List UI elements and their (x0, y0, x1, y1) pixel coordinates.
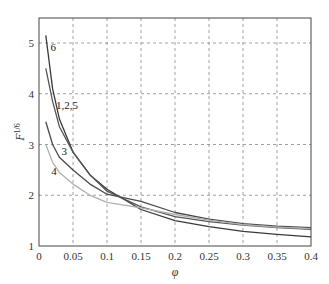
x-tick-label: 0.1 (100, 250, 114, 262)
x-tick-label: 0.4 (304, 250, 318, 262)
y-axis-ticks: 12345 (29, 37, 35, 252)
x-tick-label: 0.05 (63, 250, 83, 262)
y-tick-label: 3 (29, 139, 35, 151)
y-tick-label: 1 (29, 240, 35, 252)
x-axis-label: φ (172, 265, 179, 279)
curve-4 (46, 145, 311, 229)
curve-6 (46, 35, 311, 237)
y-axis-label: F1/6 (13, 123, 27, 142)
x-tick-label: 0.15 (131, 250, 151, 262)
curves (46, 35, 311, 237)
grid (39, 18, 311, 246)
y-tick-label: 5 (29, 37, 35, 49)
x-tick-label: 0.35 (267, 250, 287, 262)
curve-label: 3 (61, 145, 67, 157)
x-tick-label: 0.3 (236, 250, 250, 262)
x-tick-label: 0 (36, 250, 42, 262)
curve-1-2-5 (46, 68, 311, 229)
curve-label: 4 (51, 165, 57, 177)
curve-label: 6 (51, 41, 57, 53)
curve-label: 1,2,5 (56, 99, 79, 111)
x-tick-label: 0.25 (199, 250, 219, 262)
curve-3 (46, 122, 311, 228)
x-tick-label: 0.2 (168, 250, 182, 262)
y-tick-label: 4 (29, 88, 35, 100)
y-tick-label: 2 (29, 189, 35, 201)
x-axis-ticks: 00.050.10.150.20.250.30.350.4 (36, 250, 318, 262)
chart: 00.050.10.150.20.250.30.350.4 12345 61,2… (0, 0, 329, 284)
